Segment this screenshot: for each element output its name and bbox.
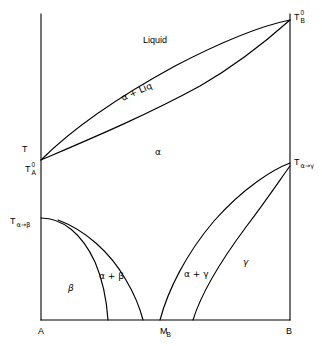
region-label-alpha: α [155,147,161,157]
x-axis-left-label: A [38,326,44,336]
x-axis-right-label: B [286,326,292,336]
alpha-gamma-solvus-right-curve [193,166,290,320]
region-label-liquid: Liquid [143,35,167,45]
T-alpha-to-gamma-base: T [294,157,300,167]
phase-diagram-canvas: T A M B B T 0 A T 0 B T α→γ T α→β Liquid… [0,0,322,346]
phase-diagram-figure: T A M B B T 0 A T 0 B T α→γ T α→β Liquid… [0,0,322,346]
region-label-alpha-plus-gamma: α + γ [184,269,209,279]
T-B-zero-superscript: 0 [301,9,305,16]
temperature-label-T-B-zero: T 0 B [294,9,305,25]
T-A-zero-superscript: 0 [32,161,36,168]
x-axis-mid-label-sub: B [167,331,171,338]
T-B-zero-base: T [294,12,300,22]
alpha-beta-solvus-right-curve [58,220,143,320]
region-label-alpha-plus-beta: α + β [99,271,124,281]
region-label-beta: β [67,283,74,293]
x-axis-mid-label: M B [160,326,171,338]
temperature-label-T-A-zero: T 0 A [25,161,37,177]
T-alpha-to-beta-subscript: α→β [17,221,31,229]
T-B-zero-subscript: B [301,17,305,24]
alpha-beta-solvus-left-curve [41,218,108,320]
y-axis-label: T [22,144,28,154]
alpha-gamma-solvus-left-curve [160,163,290,320]
temperature-label-T-alpha-to-beta: T α→β [10,216,30,229]
T-alpha-to-gamma-subscript: α→γ [301,162,315,170]
temperature-label-T-alpha-to-gamma: T α→γ [294,157,314,170]
T-A-zero-base: T [25,164,31,174]
T-alpha-to-beta-base: T [10,216,16,226]
region-label-gamma: γ [243,257,249,267]
region-label-alpha-plus-liq: α + Liq [120,80,154,102]
T-A-zero-subscript: A [32,169,37,176]
